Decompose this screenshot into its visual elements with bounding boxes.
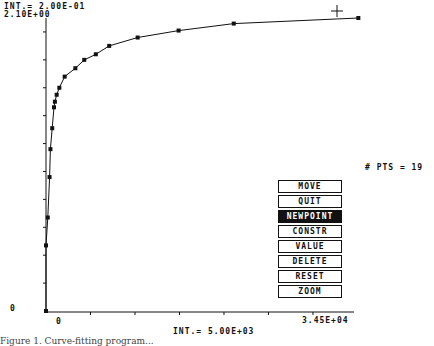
x-max-label: 3.45E+04 xyxy=(302,317,349,325)
data-point xyxy=(63,75,67,79)
data-point xyxy=(356,16,360,20)
x-interval-label: INT.= 5.00E+03 xyxy=(173,328,254,336)
data-point xyxy=(107,44,111,48)
points-count-label: # PTS = 19 xyxy=(365,164,423,172)
data-point xyxy=(48,147,52,151)
data-point xyxy=(52,105,56,109)
newpoint-button[interactable]: NEWPOINT xyxy=(278,210,342,223)
data-point xyxy=(46,216,50,220)
data-point xyxy=(232,22,236,26)
quit-button[interactable]: QUIT xyxy=(278,195,342,208)
data-point xyxy=(57,86,61,90)
move-button[interactable]: MOVE xyxy=(278,180,342,193)
data-point xyxy=(82,58,86,62)
x-origin-label: 0 xyxy=(56,318,62,326)
constr-button[interactable]: CONSTR xyxy=(278,225,342,238)
data-point xyxy=(53,100,57,104)
data-point xyxy=(55,93,59,97)
y-origin-label: 0 xyxy=(10,305,16,313)
data-point xyxy=(44,309,48,313)
reset-button[interactable]: RESET xyxy=(278,270,342,283)
data-point xyxy=(136,36,140,40)
data-point xyxy=(48,175,52,179)
data-point xyxy=(44,243,48,247)
data-point xyxy=(94,52,98,56)
figure-caption: Figure 1. Curve-fitting program... xyxy=(0,336,154,346)
crosshair-cursor-icon xyxy=(331,5,343,17)
data-point xyxy=(73,66,77,70)
zoom-button[interactable]: ZOOM xyxy=(278,285,342,298)
value-button[interactable]: VALUE xyxy=(278,240,342,253)
data-point xyxy=(177,29,181,33)
data-point xyxy=(50,126,54,130)
command-menu: MOVE QUIT NEWPOINT CONSTR VALUE DELETE R… xyxy=(278,180,342,300)
delete-button[interactable]: DELETE xyxy=(278,255,342,268)
